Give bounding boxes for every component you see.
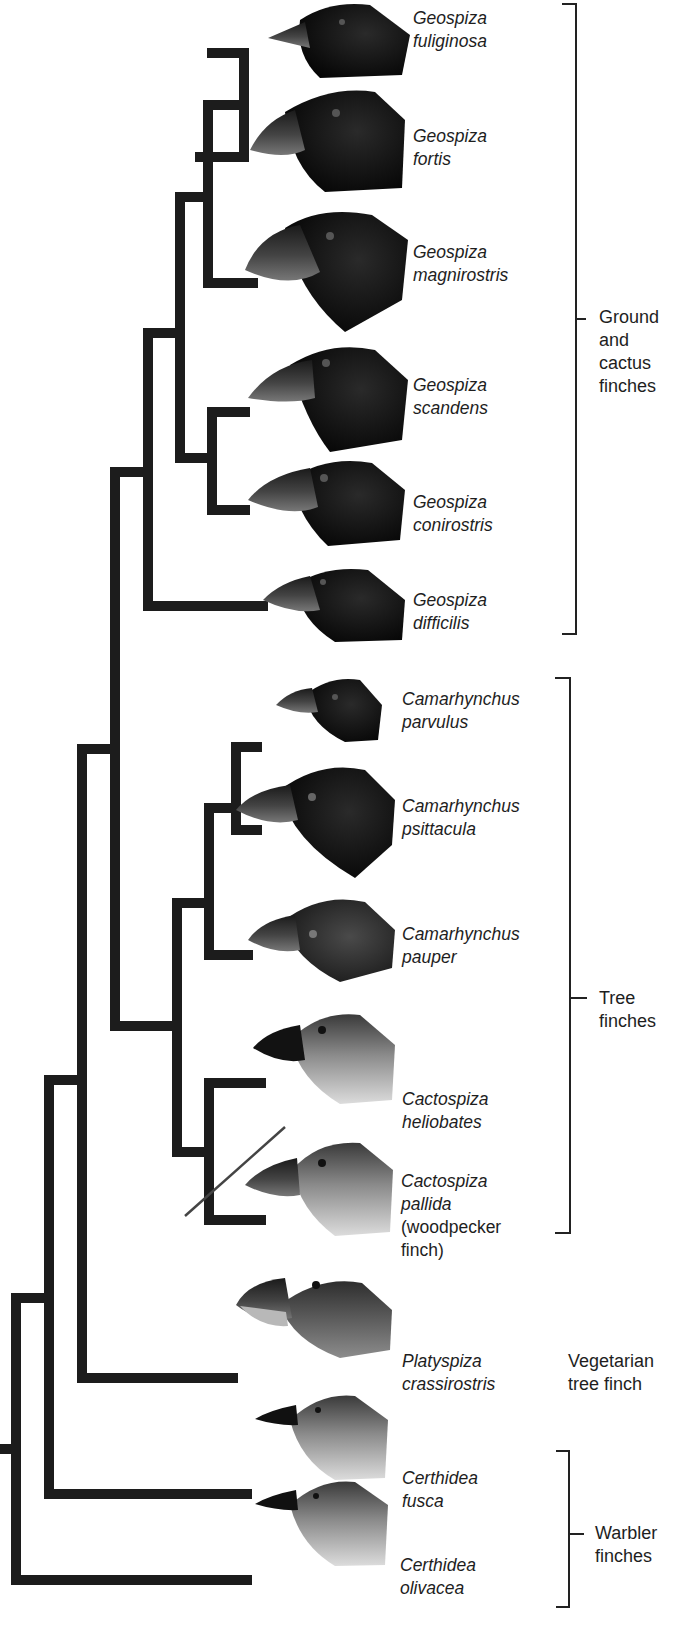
group-label-line: Warbler [595,1522,657,1545]
species-label-certhidea-olivacea: Certhidea olivacea [400,1554,476,1600]
group-label-ground-cactus-finches: Ground and cactus finches [599,306,659,398]
bird-head-fuliginosa [268,4,410,78]
group-label-line: and [599,329,659,352]
species-epithet: heliobates [402,1111,489,1134]
genus-name: Camarhynchus [402,795,520,818]
bird-head-psittacula [236,768,395,879]
group-label-line: Vegetarian [568,1350,654,1373]
genus-name: Certhidea [400,1554,476,1577]
bird-head-parvulus [276,679,382,742]
species-epithet: psittacula [402,818,520,841]
species-epithet: pauper [402,946,520,969]
tree-branches [0,53,268,1580]
bird-head-conirostris [248,461,405,546]
bird-head-pauper [248,900,395,983]
bird-head-scandens [248,347,408,452]
group-label-line: Tree [599,987,656,1010]
species-epithet: parvulus [402,711,520,734]
species-epithet: fusca [402,1490,478,1513]
group-label-line: finches [599,375,659,398]
branch-platyspiza [82,749,238,1378]
species-epithet: magnirostris [413,264,508,287]
bird-head-olivacea [255,1481,388,1566]
species-label-geospiza-fuliginosa: Geospiza fuliginosa [413,7,487,53]
bird-head-heliobates [253,1014,395,1104]
species-label-cactospiza-pallida: Cactospiza pallida (woodpecker finch) [401,1170,501,1262]
group-label-line: finches [599,1010,656,1033]
bracket-ground-cactus-finches [562,4,576,634]
species-label-geospiza-fortis: Geospiza fortis [413,125,487,171]
genus-name: Geospiza [413,241,508,264]
group-label-line: finches [595,1545,657,1568]
species-label-camarhynchus-psittacula: Camarhynchus psittacula [402,795,520,841]
bird-head-fortis [250,91,405,192]
genus-name: Geospiza [413,7,487,30]
common-name: (woodpecker [401,1216,501,1239]
genus-name: Camarhynchus [402,923,520,946]
species-label-geospiza-magnirostris: Geospiza magnirostris [413,241,508,287]
species-label-camarhynchus-parvulus: Camarhynchus parvulus [402,688,520,734]
branch-magnirostris [208,105,258,283]
species-epithet: scandens [413,397,488,420]
genus-name: Cactospiza [402,1088,489,1111]
species-label-geospiza-scandens: Geospiza scandens [413,374,488,420]
species-epithet: fuliginosa [413,30,487,53]
bracket-warbler-finches [556,1451,569,1607]
group-label-line: tree finch [568,1373,654,1396]
species-epithet: olivacea [400,1577,476,1600]
bird-head-fusca [255,1396,388,1481]
bird-heads [185,4,410,1566]
species-epithet: crassirostris [402,1373,495,1396]
genus-name: Geospiza [413,491,493,514]
species-label-certhidea-fusca: Certhidea fusca [402,1467,478,1513]
group-label-line: Ground [599,306,659,329]
genus-name: Geospiza [413,125,487,148]
genus-name: Camarhynchus [402,688,520,711]
common-name: finch) [401,1239,501,1262]
species-label-camarhynchus-pauper: Camarhynchus pauper [402,923,520,969]
bird-head-crassirostris [236,1278,392,1358]
bracket-tree-finches [555,678,570,1233]
branch-scandens-conirostris [212,412,250,510]
group-label-line: cactus [599,352,659,375]
genus-name: Cactospiza [401,1170,501,1193]
genus-name: Geospiza [413,589,487,612]
species-epithet: pallida [401,1193,501,1216]
bird-head-magnirostris [245,212,408,332]
species-epithet: fortis [413,148,487,171]
species-label-cactospiza-heliobates: Cactospiza heliobates [402,1088,489,1134]
species-epithet: conirostris [413,514,493,537]
bird-head-difficilis [263,569,405,642]
species-epithet: difficilis [413,612,487,635]
group-label-warbler-finches: Warbler finches [595,1522,657,1568]
group-label-vegetarian-tree-finch: Vegetarian tree finch [568,1350,654,1396]
species-label-geospiza-difficilis: Geospiza difficilis [413,589,487,635]
group-label-tree-finches: Tree finches [599,987,656,1033]
species-label-geospiza-conirostris: Geospiza conirostris [413,491,493,537]
genus-name: Geospiza [413,374,488,397]
genus-name: Certhidea [402,1467,478,1490]
species-label-platyspiza-crassirostris: Platyspiza crassirostris [402,1350,495,1396]
genus-name: Platyspiza [402,1350,495,1373]
